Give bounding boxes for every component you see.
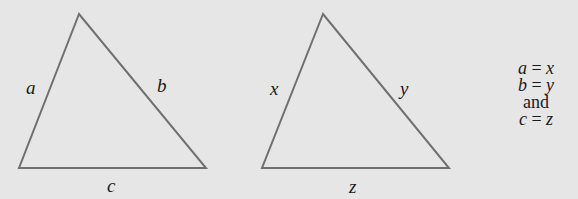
- triangle-abc: [19, 14, 206, 168]
- side-label-z: z: [349, 177, 356, 196]
- congruence-conditions: a = x b = y and c = z: [497, 60, 575, 128]
- side-label-a: a: [26, 78, 36, 97]
- triangle-xyz: [262, 14, 449, 168]
- triangles-figure: [0, 0, 578, 199]
- eq3-lhs: c: [519, 109, 527, 129]
- eq3-op: =: [531, 109, 541, 129]
- side-label-b: b: [157, 76, 167, 95]
- eq3-rhs: z: [546, 109, 553, 129]
- side-label-x: x: [270, 79, 278, 98]
- equation-c-z: c = z: [497, 111, 575, 128]
- side-label-c: c: [107, 176, 115, 195]
- side-label-y: y: [400, 79, 408, 98]
